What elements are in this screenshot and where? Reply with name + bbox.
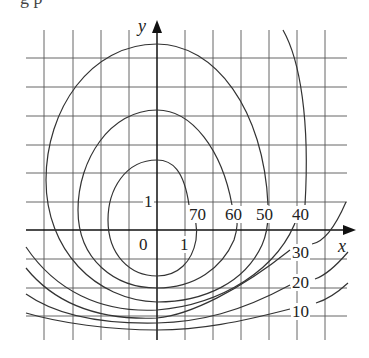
contour-label-40: 40 <box>291 206 310 223</box>
contour-label-50: 50 <box>255 206 274 223</box>
contour-40 <box>283 30 306 205</box>
contour-plot <box>0 0 369 358</box>
origin-label: 0 <box>138 236 149 253</box>
contour-30 <box>26 250 290 318</box>
y-tick-label: 1 <box>143 193 154 210</box>
x-tick-label: 1 <box>179 236 190 253</box>
contour-10-right <box>316 283 348 303</box>
y-axis-arrow-icon <box>152 20 162 33</box>
contour-label-20: 20 <box>291 274 310 291</box>
contour-label-60: 60 <box>224 206 243 223</box>
x-axis-label: x <box>338 236 346 257</box>
x-axis-arrow-icon <box>343 225 356 235</box>
y-axis-label: y <box>138 16 146 37</box>
contour-label-10: 10 <box>291 303 310 320</box>
contour-label-70: 70 <box>188 206 207 223</box>
contour-label-30: 30 <box>291 244 310 261</box>
